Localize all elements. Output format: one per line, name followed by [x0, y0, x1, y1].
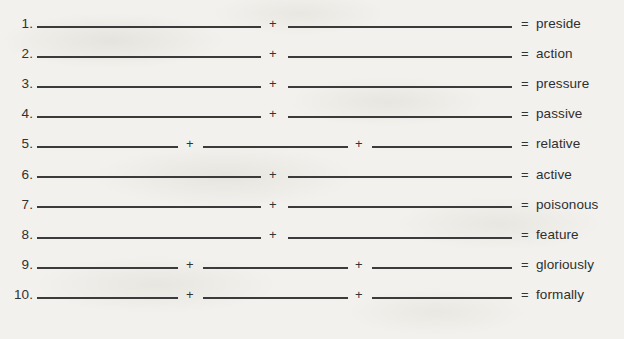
problem-number: 6. — [22, 166, 33, 181]
word-building-worksheet: 1.+=preside2.+=action3.+=pressure4.+=pas… — [0, 0, 624, 339]
equals-icon: = — [521, 137, 529, 150]
equals-icon: = — [521, 287, 529, 300]
answer-blank-2[interactable] — [288, 237, 512, 239]
plus-icon: + — [269, 197, 277, 210]
answer-blank-1[interactable] — [37, 86, 261, 88]
answer-blank-2[interactable] — [203, 297, 348, 299]
answer-blank-2[interactable] — [288, 86, 512, 88]
problem-number: 10. — [14, 286, 33, 301]
plus-icon: + — [269, 107, 277, 120]
problem-row: 9.++=gloriously — [0, 252, 624, 276]
target-word: formally — [536, 286, 584, 301]
problem-row: 4.+=passive — [0, 101, 624, 125]
answer-blank-1[interactable] — [37, 206, 261, 208]
plus-icon: + — [269, 17, 277, 30]
answer-blank-1[interactable] — [37, 176, 261, 178]
problem-row: 7.+=poisonous — [0, 192, 624, 216]
plus-icon: + — [269, 167, 277, 180]
target-word: pressure — [536, 76, 589, 91]
problem-number: 8. — [22, 226, 33, 241]
equals-icon: = — [521, 197, 529, 210]
answer-blank-1[interactable] — [37, 297, 178, 299]
answer-blank-1[interactable] — [37, 56, 261, 58]
equals-icon: = — [521, 77, 529, 90]
problem-row: 2.+=action — [0, 41, 624, 65]
answer-blank-2[interactable] — [288, 176, 512, 178]
answer-blank-1[interactable] — [37, 237, 261, 239]
answer-blank-3[interactable] — [372, 297, 512, 299]
plus-icon: + — [355, 257, 363, 270]
problem-number: 4. — [22, 106, 33, 121]
plus-icon: + — [269, 77, 277, 90]
target-word: action — [536, 46, 573, 61]
problem-row: 10.++=formally — [0, 282, 624, 306]
problem-number: 9. — [22, 256, 33, 271]
answer-blank-1[interactable] — [37, 146, 178, 148]
target-word: relative — [536, 136, 580, 151]
plus-icon: + — [186, 287, 194, 300]
answer-blank-1[interactable] — [37, 116, 261, 118]
equals-icon: = — [521, 167, 529, 180]
target-word: active — [536, 166, 572, 181]
target-word: preside — [536, 16, 581, 31]
problem-number: 2. — [22, 46, 33, 61]
answer-blank-2[interactable] — [288, 116, 512, 118]
plus-icon: + — [186, 257, 194, 270]
answer-blank-3[interactable] — [372, 267, 512, 269]
problem-row: 6.+=active — [0, 162, 624, 186]
equals-icon: = — [521, 47, 529, 60]
answer-blank-2[interactable] — [288, 206, 512, 208]
problem-row: 8.+=feature — [0, 222, 624, 246]
target-word: feature — [536, 226, 579, 241]
target-word: poisonous — [536, 196, 598, 211]
problem-row: 1.+=preside — [0, 11, 624, 35]
equals-icon: = — [521, 227, 529, 240]
target-word: gloriously — [536, 256, 594, 271]
answer-blank-2[interactable] — [203, 267, 348, 269]
plus-icon: + — [355, 137, 363, 150]
problem-number: 3. — [22, 76, 33, 91]
problem-row: 3.+=pressure — [0, 71, 624, 95]
answer-blank-1[interactable] — [37, 26, 261, 28]
answer-blank-2[interactable] — [203, 146, 348, 148]
problem-number: 5. — [22, 136, 33, 151]
equals-icon: = — [521, 257, 529, 270]
answer-blank-1[interactable] — [37, 267, 178, 269]
answer-blank-3[interactable] — [372, 146, 512, 148]
target-word: passive — [536, 106, 582, 121]
problem-number: 1. — [22, 16, 33, 31]
plus-icon: + — [269, 227, 277, 240]
equals-icon: = — [521, 17, 529, 30]
plus-icon: + — [355, 287, 363, 300]
equals-icon: = — [521, 107, 529, 120]
problem-number: 7. — [22, 196, 33, 211]
answer-blank-2[interactable] — [288, 56, 512, 58]
problem-row: 5.++=relative — [0, 131, 624, 155]
answer-blank-2[interactable] — [288, 26, 512, 28]
plus-icon: + — [269, 47, 277, 60]
plus-icon: + — [186, 137, 194, 150]
